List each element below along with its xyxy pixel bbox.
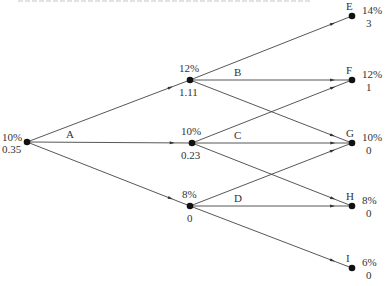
edge-label-A: A (66, 129, 74, 140)
node-H (349, 203, 356, 210)
value-label: 0.35 (2, 144, 21, 155)
node-G (349, 140, 356, 147)
node-name-label: H (346, 191, 354, 202)
edge-label-B: B (234, 67, 241, 78)
value-label: 0 (366, 270, 372, 281)
node-n12 (187, 77, 194, 84)
node-E (349, 13, 356, 20)
node-name-label: G (346, 128, 354, 139)
node-n10 (189, 140, 196, 147)
edge-n12-E (190, 16, 352, 80)
edge-root-n8 (27, 142, 190, 206)
value-label: 0 (366, 208, 372, 219)
node-name-label: F (346, 65, 352, 76)
node-name-label: E (346, 1, 353, 12)
rate-label: 12% (179, 63, 199, 74)
binomial-tree-diagram (0, 0, 385, 286)
edge-root-n12 (27, 80, 190, 142)
edge-label-C: C (234, 130, 241, 141)
value-label: 0.23 (181, 150, 200, 161)
value-label: 0 (187, 213, 193, 224)
rate-label: 8% (182, 189, 197, 200)
rate-label: 14% (362, 5, 382, 16)
rate-label: 6% (362, 257, 377, 268)
value-label: 0 (366, 145, 372, 156)
node-n8 (187, 203, 194, 210)
rate-label: 12% (362, 69, 382, 80)
node-root (24, 139, 31, 146)
rate-label: 8% (362, 195, 377, 206)
node-F (349, 77, 356, 84)
edge-n8-I (190, 206, 352, 268)
edge-label-D: D (234, 193, 242, 204)
rate-label: 10% (2, 132, 22, 143)
value-label: 1 (366, 82, 372, 93)
rate-label: 10% (181, 126, 201, 137)
node-I (349, 265, 356, 272)
node-name-label: I (346, 253, 350, 264)
value-label: 3 (366, 18, 372, 29)
edge-root-n10 (27, 142, 192, 143)
value-label: 1.11 (179, 87, 198, 98)
rate-label: 10% (362, 132, 382, 143)
